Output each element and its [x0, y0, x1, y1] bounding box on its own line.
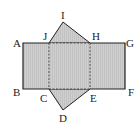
label-d: D — [59, 112, 67, 124]
top-triangle-face — [49, 22, 90, 43]
rectangle-face-hefg — [90, 43, 125, 89]
label-e: E — [90, 92, 97, 104]
bottom-triangle-face — [49, 89, 90, 110]
label-b: B — [13, 86, 20, 98]
rectangle-face-abcj — [23, 43, 49, 89]
label-c: C — [40, 92, 47, 104]
prism-net-diagram: A B C D E F G H I J — [0, 0, 140, 131]
label-i: I — [61, 9, 65, 21]
label-j: J — [43, 30, 48, 42]
rectangle-face-jceh — [49, 43, 90, 89]
label-a: A — [13, 37, 21, 49]
label-f: F — [128, 86, 134, 98]
label-h: H — [92, 30, 100, 42]
label-g: G — [126, 37, 134, 49]
